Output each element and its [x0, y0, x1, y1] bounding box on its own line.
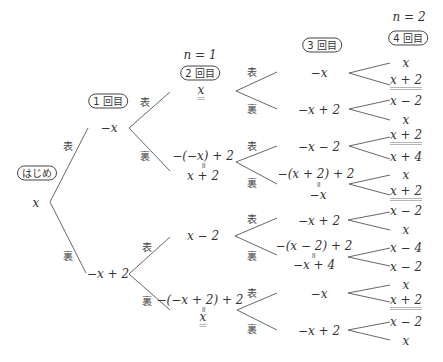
- col4-leaf: x + 4: [390, 151, 422, 163]
- heads-label: 表: [63, 142, 73, 152]
- col2-node: x + 2: [187, 170, 219, 182]
- col4-leaf: x: [403, 114, 410, 126]
- tree-branches: [0, 0, 443, 362]
- tails-label: 裏: [140, 152, 150, 162]
- tails-label: 裏: [247, 252, 257, 262]
- col4-leaf: x: [403, 279, 410, 291]
- col4-leaf: x − 2: [390, 205, 422, 217]
- col4-leaf: x − 2: [390, 261, 422, 273]
- heads-label: 表: [247, 142, 257, 152]
- round3-label: 3 回目: [302, 38, 342, 53]
- coin-toss-tree-diagram: はじめ 1 回目 n = 1 2 回目 3 回目 n = 2 4 回目 x 表 …: [0, 0, 443, 362]
- heads-label: 表: [142, 243, 152, 253]
- col4-leaf-highlighted: x + 2: [390, 129, 422, 145]
- col4-leaf-highlighted: x + 2: [390, 74, 422, 90]
- col4-leaf: x − 2: [390, 95, 422, 107]
- tails-label: 裏: [63, 252, 73, 262]
- col4-leaf: x: [403, 335, 410, 347]
- heads-label: 表: [140, 98, 150, 108]
- round1-label: 1 回目: [88, 94, 128, 109]
- n1-label: n = 1: [183, 49, 216, 61]
- col4-leaf: x − 4: [390, 242, 422, 254]
- col2-node-highlighted: x: [198, 84, 205, 100]
- round4-label: 4 回目: [388, 31, 428, 46]
- col1-node: −x + 2: [87, 268, 129, 280]
- col3-node: −x: [310, 189, 327, 201]
- col4-leaf-highlighted: x + 2: [390, 185, 422, 201]
- heads-label: 表: [247, 289, 257, 299]
- col3-node: −x − 2: [298, 141, 340, 153]
- heads-label: 表: [247, 215, 257, 225]
- col3-node: −x: [311, 288, 328, 300]
- col3-expression: −(x + 2) + 2: [278, 168, 355, 180]
- col3-node: −x + 2: [298, 215, 340, 227]
- col4-leaf: x: [403, 169, 410, 181]
- col1-node: −x: [101, 122, 118, 134]
- col3-node: −x: [311, 67, 328, 79]
- tails-label: 裏: [247, 105, 257, 115]
- tails-label: 裏: [247, 325, 257, 335]
- tails-label: 裏: [142, 297, 152, 307]
- tails-label: 裏: [247, 179, 257, 189]
- col4-leaf-highlighted: x + 2: [390, 294, 422, 310]
- col3-node: −x + 2: [298, 104, 340, 116]
- start-label: はじめ: [17, 166, 57, 181]
- root-node: x: [33, 197, 40, 209]
- col4-leaf: x: [403, 57, 410, 69]
- col4-leaf: x: [403, 224, 410, 236]
- col4-leaf: x − 2: [390, 316, 422, 328]
- col2-node: x − 2: [187, 230, 219, 242]
- heads-label: 表: [247, 68, 257, 78]
- n2-label: n = 2: [392, 11, 425, 23]
- round2-label: 2 回目: [180, 66, 220, 81]
- col3-node: −x + 2: [298, 325, 340, 337]
- col3-node: −x + 4: [293, 259, 335, 271]
- col2-node-highlighted: x: [200, 311, 207, 327]
